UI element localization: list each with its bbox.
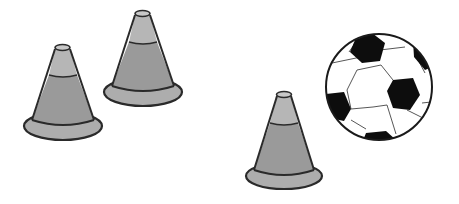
- illustration: Three grey training cones and a black-an…: [0, 0, 459, 204]
- scene-canvas: [0, 0, 459, 204]
- cone-icon: [24, 45, 102, 141]
- cone-icon: [104, 11, 182, 107]
- soccer-ball-icon: [322, 33, 434, 143]
- cone-icon: [246, 92, 322, 190]
